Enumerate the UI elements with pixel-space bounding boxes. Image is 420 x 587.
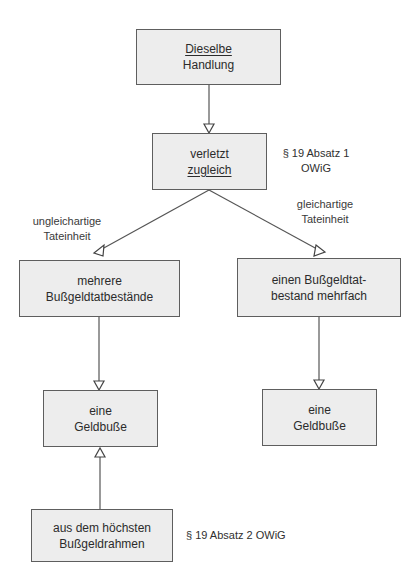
node-multiple-offences-line2: Bußgeldtatbestände xyxy=(46,289,153,305)
edge-label-like: gleichartige Tateinheit xyxy=(285,197,365,227)
node-one-offence-multiple: einen Bußgeldtat- bestand mehrfach xyxy=(237,258,401,317)
arrowhead-down-icon xyxy=(94,381,104,390)
reference-para-19-1-line2: OWiG xyxy=(272,161,360,176)
node-fine-left-line2: Geldbuße xyxy=(74,419,127,435)
node-fine-right: eine Geldbuße xyxy=(262,389,377,446)
node-fine-right-line1: eine xyxy=(308,402,331,418)
arrowhead-diagonal-right-icon xyxy=(314,245,325,256)
arrowhead-diagonal-left-icon xyxy=(94,245,104,256)
node-fine-left: eine Geldbuße xyxy=(43,390,158,447)
node-highest-range: aus dem höchsten Bußgeldrahmen xyxy=(31,509,173,562)
edge-label-unlike: ungleichartige Tateinheit xyxy=(22,214,112,244)
node-one-offence-multiple-line2: bestand mehrfach xyxy=(271,288,367,304)
reference-para-19-1: § 19 Absatz 1 OWiG xyxy=(272,146,360,176)
node-fine-right-line2: Geldbuße xyxy=(293,418,346,434)
node-one-offence-multiple-line1: einen Bußgeldtat- xyxy=(272,272,367,288)
edge-label-unlike-line2: Tateinheit xyxy=(22,229,112,244)
reference-para-19-1-line1: § 19 Absatz 1 xyxy=(272,146,360,161)
node-same-act-line1: Dieselbe xyxy=(185,41,232,57)
arrowhead-down-icon xyxy=(314,380,324,389)
node-fine-left-line1: eine xyxy=(89,403,112,419)
node-multiple-offences: mehrere Bußgeldtatbestände xyxy=(19,260,180,317)
edge-violates-to-multiple xyxy=(102,190,209,249)
node-violates-line2: zugleich xyxy=(187,162,231,178)
node-same-act-line2: Handlung xyxy=(183,57,234,73)
node-highest-range-line2: Bußgeldrahmen xyxy=(59,536,144,552)
node-multiple-offences-line1: mehrere xyxy=(77,273,122,289)
edge-label-like-line2: Tateinheit xyxy=(285,212,365,227)
reference-para-19-2: § 19 Absatz 2 OWiG xyxy=(186,528,296,543)
node-violates: verletzt zugleich xyxy=(152,133,267,190)
edge-label-unlike-line1: ungleichartige xyxy=(22,214,112,229)
edge-label-like-line1: gleichartige xyxy=(285,197,365,212)
node-violates-line1: verletzt xyxy=(190,146,229,162)
node-same-act: Dieselbe Handlung xyxy=(136,29,281,85)
diagram-canvas: Dieselbe Handlung verletzt zugleich § 19… xyxy=(0,0,420,587)
node-highest-range-line1: aus dem höchsten xyxy=(53,520,151,536)
arrowhead-down-icon xyxy=(204,124,214,133)
arrowhead-up-icon xyxy=(95,448,105,457)
